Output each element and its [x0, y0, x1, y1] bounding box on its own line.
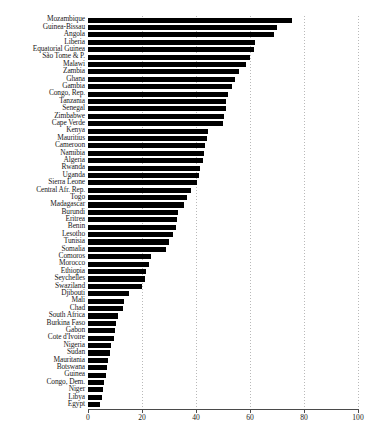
bar-row — [88, 216, 358, 223]
bar — [88, 195, 187, 200]
bar — [88, 262, 149, 267]
bar-row — [88, 142, 358, 149]
bar — [88, 276, 145, 281]
bar — [88, 188, 191, 193]
bar — [88, 328, 115, 333]
bar — [88, 77, 235, 82]
bar — [88, 365, 107, 370]
bar — [88, 402, 100, 407]
bar-row — [88, 68, 358, 75]
bar — [88, 343, 111, 348]
category-label: Egypt — [0, 400, 85, 407]
bar — [88, 291, 129, 296]
plot-area — [88, 16, 358, 408]
bar-row — [88, 171, 358, 178]
bar-row — [88, 149, 358, 156]
bar — [88, 180, 197, 185]
x-axis-tick-label: 40 — [183, 413, 209, 423]
bar-row — [88, 275, 358, 282]
x-axis-tick-label: 100 — [345, 413, 371, 423]
bar — [88, 18, 292, 23]
bar-row — [88, 90, 358, 97]
bar-row — [88, 386, 358, 393]
bar-row — [88, 238, 358, 245]
bar — [88, 217, 177, 222]
bar-row — [88, 194, 358, 201]
bar-row — [88, 290, 358, 297]
bar-row — [88, 349, 358, 356]
bar-row — [88, 112, 358, 119]
bar — [88, 313, 118, 318]
bar-row — [88, 267, 358, 274]
bar — [88, 129, 208, 134]
gridline — [358, 16, 359, 408]
category-axis-labels: MozambiqueGuinea-BissauAngolaLiberiaEqua… — [0, 16, 85, 408]
bar — [88, 151, 204, 156]
bar — [88, 387, 103, 392]
bar-row — [88, 356, 358, 363]
bar-row — [88, 23, 358, 30]
bar-row — [88, 120, 358, 127]
bar — [88, 92, 228, 97]
bar-row — [88, 341, 358, 348]
bar-row — [88, 46, 358, 53]
x-axis-tick-label: 80 — [291, 413, 317, 423]
bar — [88, 210, 178, 215]
bar — [88, 239, 169, 244]
x-axis-tick-label: 20 — [129, 413, 155, 423]
bar — [88, 99, 226, 104]
bar-row — [88, 38, 358, 45]
bar-row — [88, 230, 358, 237]
bar-row — [88, 327, 358, 334]
bar-row — [88, 378, 358, 385]
bar — [88, 225, 176, 230]
bar-row — [88, 134, 358, 141]
bar — [88, 32, 274, 37]
bar — [88, 336, 114, 341]
bar-row — [88, 260, 358, 267]
bar — [88, 321, 116, 326]
bar-row — [88, 223, 358, 230]
bar — [88, 202, 184, 207]
bar-row — [88, 371, 358, 378]
bar — [88, 395, 102, 400]
bar — [88, 25, 277, 30]
bar-row — [88, 157, 358, 164]
bar-row — [88, 245, 358, 252]
x-axis-tick-label: 60 — [237, 413, 263, 423]
bar — [88, 114, 224, 119]
bar-row — [88, 60, 358, 67]
bar-row — [88, 179, 358, 186]
bar — [88, 232, 173, 237]
bar — [88, 380, 104, 385]
bar-row — [88, 97, 358, 104]
bar — [88, 173, 199, 178]
bar — [88, 158, 203, 163]
bar — [88, 121, 223, 126]
bar — [88, 47, 254, 52]
bar-row — [88, 75, 358, 82]
bar — [88, 306, 123, 311]
bar-row — [88, 201, 358, 208]
bar — [88, 269, 146, 274]
bar — [88, 247, 166, 252]
bar — [88, 166, 200, 171]
bar — [88, 136, 207, 141]
bar-row — [88, 312, 358, 319]
bar — [88, 143, 205, 148]
bar-row — [88, 31, 358, 38]
bar-series — [88, 16, 358, 408]
x-axis-line — [88, 409, 359, 410]
bar-chart: MozambiqueGuinea-BissauAngolaLiberiaEqua… — [0, 0, 381, 435]
bar — [88, 106, 226, 111]
bar-row — [88, 393, 358, 400]
bar-row — [88, 127, 358, 134]
bar-row — [88, 401, 358, 408]
bar-row — [88, 297, 358, 304]
bar-row — [88, 304, 358, 311]
bar-row — [88, 83, 358, 90]
bar-row — [88, 282, 358, 289]
bar-row — [88, 208, 358, 215]
bar — [88, 62, 246, 67]
bar — [88, 254, 151, 259]
